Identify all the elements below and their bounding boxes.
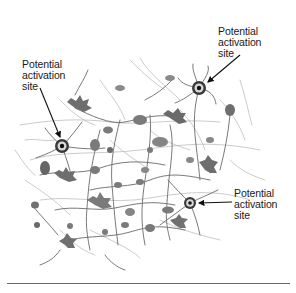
horizontal-rule (7, 283, 290, 284)
cell-bodies (31, 75, 235, 248)
label-line: site (218, 48, 261, 59)
arrow-top-right (208, 55, 240, 82)
label-bottom-right: Potential activation site (234, 188, 277, 221)
activation-site-top-left (55, 139, 69, 153)
arrow-bottom-right (199, 202, 232, 203)
dendrites (32, 64, 230, 270)
label-top-right: Potential activation site (218, 26, 261, 59)
activation-site-bottom-right (184, 197, 196, 209)
label-line: site (234, 210, 277, 221)
activation-site-top-right (192, 81, 206, 95)
label-line: site (22, 81, 65, 92)
label-top-left: Potential activation site (22, 59, 65, 92)
arrow-top-left (40, 88, 60, 137)
